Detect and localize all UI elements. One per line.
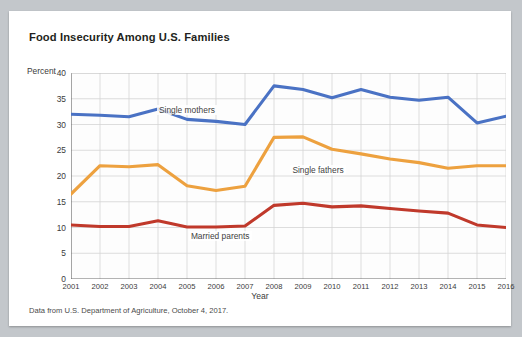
y-tick-label: 30 [38,120,66,130]
page-title: Food Insecurity Among U.S. Families [29,31,230,43]
y-tick-label: 5 [38,248,66,258]
plot-area [71,73,506,279]
y-tick-label: 35 [38,94,66,104]
chart-card: Food Insecurity Among U.S. Families Perc… [9,11,511,326]
series-annotation: Married parents [189,231,252,241]
x-axis-label: Year [9,291,511,301]
series-annotation: Single fathers [290,165,345,175]
y-tick-label: 20 [38,171,66,181]
x-tick-label: 2016 [489,282,522,291]
series-annotation: Single mothers [157,105,217,115]
y-tick-label: 10 [38,223,66,233]
y-tick-label: 15 [38,197,66,207]
y-tick-label: 25 [38,145,66,155]
screenshot-background: Food Insecurity Among U.S. Families Perc… [0,0,522,337]
y-tick-label: 40 [38,68,66,78]
line-chart-svg [71,73,506,279]
source-note: Data from U.S. Department of Agriculture… [29,306,228,315]
